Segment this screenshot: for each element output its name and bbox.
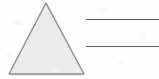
triangle-base-shadow xyxy=(10,75,83,76)
figure-svg xyxy=(0,0,159,79)
diagram-canvas xyxy=(0,0,159,79)
